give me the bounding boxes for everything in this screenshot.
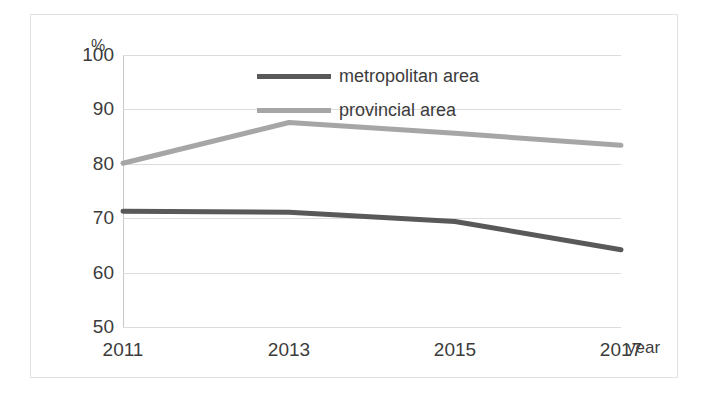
y-tick-label-100: 100	[82, 44, 114, 66]
x-tick-label-2013: 2013	[268, 339, 310, 361]
gridline-50	[123, 327, 621, 328]
y-tick-label-70: 70	[93, 207, 114, 229]
legend: metropolitan area provincial area	[257, 59, 497, 127]
series-line-metropolitan-area	[123, 211, 621, 250]
legend-item-provincial-area: provincial area	[257, 93, 497, 127]
y-tick-label-90: 90	[93, 98, 114, 120]
legend-label-provincial-area: provincial area	[339, 100, 456, 121]
legend-swatch-provincial-area	[257, 108, 331, 113]
line-chart: % year 100 90 80 70 60 50 2011 2013 2015…	[30, 14, 678, 378]
y-tick-label-80: 80	[93, 153, 114, 175]
x-tick-label-2011: 2011	[103, 339, 144, 361]
legend-label-metropolitan-area: metropolitan area	[339, 66, 479, 87]
legend-item-metropolitan-area: metropolitan area	[257, 59, 497, 93]
y-tick-label-50: 50	[93, 316, 114, 338]
y-tick-label-60: 60	[93, 262, 114, 284]
series-line-provincial-area	[123, 122, 621, 163]
x-tick-label-2015: 2015	[434, 339, 476, 361]
x-tick-label-2017: 2017	[600, 339, 642, 361]
legend-swatch-metropolitan-area	[257, 74, 331, 79]
